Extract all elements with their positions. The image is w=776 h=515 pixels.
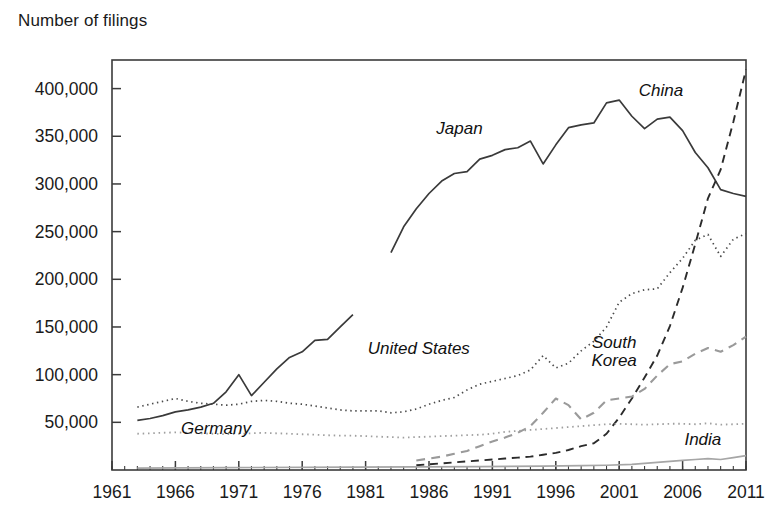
series-line-united-states [137, 234, 746, 413]
series-label-line: South [592, 333, 636, 352]
series-line-india [137, 456, 746, 468]
x-axis-tick-labels: 1961196619711976198119861991199620012006… [93, 482, 765, 502]
y-tick-label: 250,000 [35, 222, 99, 242]
series-label-united-states: United States [368, 339, 471, 358]
x-tick-label: 1966 [156, 482, 195, 502]
y-tick-label: 400,000 [35, 79, 99, 99]
series-label-china: China [639, 81, 683, 100]
y-tick-label: 350,000 [35, 126, 99, 146]
x-tick-label: 2006 [663, 482, 702, 502]
x-tick-label: 2001 [600, 482, 639, 502]
y-axis-title: Number of filings [18, 11, 147, 30]
y-tick-label: 200,000 [35, 269, 99, 289]
y-tick-label: 300,000 [35, 174, 99, 194]
y-tick-label: 50,000 [44, 412, 98, 432]
x-tick-label: 1961 [93, 482, 132, 502]
y-axis-tick-labels: 50,000100,000150,000200,000250,000300,00… [35, 79, 99, 433]
x-tick-label: 1986 [410, 482, 449, 502]
patent-filings-chart: Number of filings 50,000100,000150,00020… [0, 0, 776, 515]
y-axis-ticks [112, 89, 121, 423]
chart-canvas: Number of filings 50,000100,000150,00020… [0, 0, 776, 515]
series-label-germany: Germany [181, 419, 252, 438]
series-line-japan [137, 315, 353, 421]
x-tick-label: 1991 [473, 482, 512, 502]
x-tick-label: 1971 [219, 482, 258, 502]
plot-area-frame [112, 60, 746, 470]
series-label-india: India [684, 430, 721, 449]
x-tick-label: 1996 [536, 482, 575, 502]
series-label-line: Korea [591, 351, 636, 370]
x-tick-label: 1981 [346, 482, 385, 502]
series-label-japan: Japan [435, 119, 482, 138]
series-annotations: JapanUnited StatesChinaSouthKoreaGermany… [181, 81, 721, 449]
y-tick-label: 100,000 [35, 365, 99, 385]
x-tick-label: 1976 [283, 482, 322, 502]
x-tick-label: 2011 [727, 482, 765, 502]
series-label-south-korea: SouthKorea [591, 333, 636, 370]
y-tick-label: 150,000 [35, 317, 99, 337]
